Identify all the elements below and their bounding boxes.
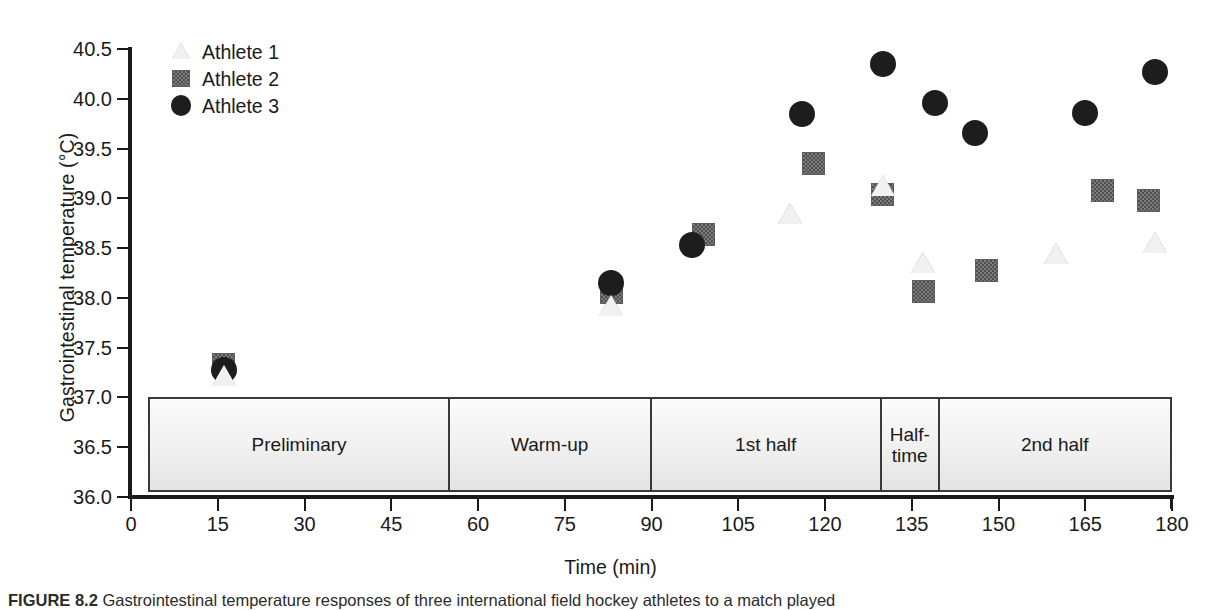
data-point-circle	[962, 120, 988, 146]
y-axis-tick-label: 39.0	[46, 188, 112, 208]
x-axis-tick	[477, 499, 479, 511]
data-point-triangle	[599, 295, 623, 316]
data-point-triangle	[1044, 243, 1068, 264]
x-axis-tick-label: 180	[1137, 513, 1207, 535]
data-point-circle	[598, 270, 624, 296]
phase-box-label: Half-time	[890, 424, 930, 466]
data-point-square	[975, 259, 998, 282]
figure-caption-text: Gastrointestinal temperature responses o…	[102, 591, 835, 609]
x-axis-tick-label: 0	[96, 513, 166, 535]
phase-box-label: Preliminary	[252, 434, 347, 455]
phase-box-label: 2nd half	[1021, 434, 1089, 455]
x-axis-title: Time (min)	[0, 556, 1221, 579]
x-axis-tick	[304, 499, 306, 511]
x-axis-tick	[217, 499, 219, 511]
data-point-square	[912, 280, 935, 303]
legend-swatch	[170, 68, 192, 90]
y-axis-tick	[117, 148, 128, 150]
y-axis-tick	[117, 446, 128, 448]
legend-swatch	[170, 95, 192, 117]
x-axis-tick-label: 75	[530, 513, 600, 535]
y-axis-tick	[117, 396, 128, 398]
data-point-circle	[1142, 59, 1168, 85]
legend-item: Athlete 3	[170, 92, 279, 119]
data-point-circle	[870, 51, 896, 77]
x-axis-tick	[737, 499, 739, 511]
chart-legend: Athlete 1Athlete 2Athlete 3	[170, 38, 279, 119]
y-axis-tick-label: 40.5	[46, 39, 112, 59]
data-point-square	[172, 70, 190, 88]
y-axis-tick	[117, 48, 128, 50]
data-point-triangle	[871, 175, 895, 196]
x-axis-tick-label: 60	[443, 513, 513, 535]
y-axis-tick	[117, 98, 128, 100]
phase-box: Preliminary	[150, 399, 450, 490]
y-axis-tick	[117, 297, 128, 299]
y-axis-tick-label: 38.5	[46, 238, 112, 258]
x-axis-tick	[390, 499, 392, 511]
x-axis-tick-label: 105	[703, 513, 773, 535]
legend-label: Athlete 3	[202, 95, 279, 117]
y-axis-tick-label: 40.0	[46, 89, 112, 109]
x-axis-tick	[998, 499, 1000, 511]
x-axis-tick	[824, 499, 826, 511]
data-point-triangle	[1143, 232, 1167, 253]
y-axis-tick-label: 36.5	[46, 437, 112, 457]
data-point-triangle	[172, 43, 190, 59]
figure-caption-label: FIGURE 8.2	[8, 591, 98, 609]
figure-caption: FIGURE 8.2 Gastrointestinal temperature …	[8, 591, 1218, 610]
x-axis-tick	[1084, 499, 1086, 511]
legend-item: Athlete 2	[170, 65, 279, 92]
y-axis-tick-label: 37.5	[46, 338, 112, 358]
y-axis-tick-label: 39.5	[46, 139, 112, 159]
x-axis-tick	[564, 499, 566, 511]
x-axis-tick-label: 150	[964, 513, 1034, 535]
phase-box-label: 1st half	[735, 434, 796, 455]
x-axis-tick	[651, 499, 653, 511]
data-point-circle	[171, 95, 191, 115]
data-point-triangle	[778, 203, 802, 224]
phase-box: 2nd half	[940, 399, 1170, 490]
y-axis-tick-label: 38.0	[46, 288, 112, 308]
x-axis-tick-label: 135	[877, 513, 947, 535]
data-point-circle	[922, 90, 948, 116]
x-axis-tick-label: 165	[1050, 513, 1120, 535]
legend-swatch	[170, 41, 192, 63]
legend-label: Athlete 2	[202, 68, 279, 90]
data-point-circle	[789, 101, 815, 127]
y-axis-tick	[117, 496, 128, 498]
data-point-triangle	[212, 365, 236, 386]
data-point-triangle	[911, 252, 935, 273]
x-axis-tick	[911, 499, 913, 511]
x-axis-tick-label: 120	[790, 513, 860, 535]
phase-box: 1st half	[652, 399, 882, 490]
y-axis-tick-label: 36.0	[46, 487, 112, 507]
data-point-square	[1137, 189, 1160, 212]
x-axis-tick-label: 90	[617, 513, 687, 535]
y-axis-tick-label: 37.0	[46, 387, 112, 407]
x-axis-tick-label: 15	[183, 513, 253, 535]
x-axis-tick-label: 45	[356, 513, 426, 535]
legend-item: Athlete 1	[170, 38, 279, 65]
data-point-circle	[1072, 100, 1098, 126]
x-axis-tick-label: 30	[270, 513, 340, 535]
y-axis-tick	[117, 197, 128, 199]
phase-strip: PreliminaryWarm-up1st halfHalf-time2nd h…	[148, 397, 1172, 492]
legend-label: Athlete 1	[202, 41, 279, 63]
phase-box: Warm-up	[450, 399, 652, 490]
data-point-square	[802, 152, 825, 175]
x-axis-tick	[130, 499, 132, 511]
y-axis-tick	[117, 347, 128, 349]
x-axis-tick	[1171, 499, 1173, 511]
y-axis-tick	[117, 247, 128, 249]
data-point-circle	[679, 232, 705, 258]
data-point-square	[1091, 179, 1114, 202]
phase-box-label: Warm-up	[511, 434, 588, 455]
phase-box: Half-time	[882, 399, 940, 490]
